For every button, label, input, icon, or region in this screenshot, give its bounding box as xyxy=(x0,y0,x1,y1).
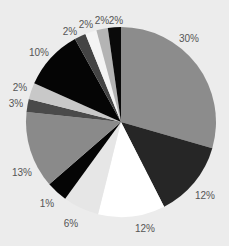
slice-label: 2% xyxy=(13,82,27,93)
slice-label: 3% xyxy=(9,98,23,109)
slice-label: 1% xyxy=(40,198,54,209)
slice-label: 12% xyxy=(135,223,155,234)
slice-label: 2% xyxy=(63,26,77,37)
slice-label: 2% xyxy=(95,15,109,26)
slice-label: 10% xyxy=(29,47,49,58)
slice-label: 12% xyxy=(195,190,215,201)
slice-label: 6% xyxy=(64,218,78,229)
slice-label: 2% xyxy=(109,15,123,26)
pie-chart: 30%12%12%6%1%13%3%2%10%2%2%2%2% xyxy=(0,0,229,246)
slice-label: 2% xyxy=(79,19,93,30)
slice-label: 30% xyxy=(179,33,199,44)
slice-label: 13% xyxy=(12,167,32,178)
